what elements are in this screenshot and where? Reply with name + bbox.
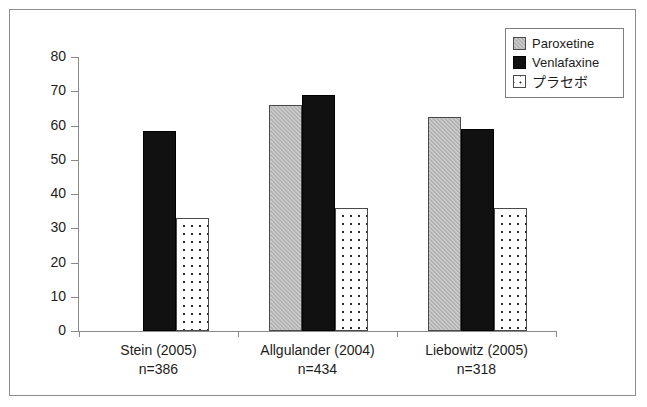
y-tick-label-wrap: 30 xyxy=(24,220,66,234)
y-tick-label-wrap: 60 xyxy=(24,118,66,132)
bar-venlafaxine-group-1 xyxy=(143,131,176,331)
y-tick-label: 70 xyxy=(32,83,66,97)
y-tick-label-wrap: 70 xyxy=(24,83,66,97)
x-tick xyxy=(238,331,239,337)
y-tick-label-wrap: 80 xyxy=(24,49,66,63)
y-tick-label: 10 xyxy=(32,289,66,303)
group-study-label: Liebowitz (2005) xyxy=(397,341,556,360)
bar-venlafaxine-group-3 xyxy=(461,129,494,331)
y-tick-0 xyxy=(71,331,78,332)
y-tick-40 xyxy=(71,194,78,195)
y-tick-80 xyxy=(71,57,78,58)
legend-item-venlafaxine: Venlafaxine xyxy=(513,53,616,72)
bar-venlafaxine-group-2 xyxy=(302,95,335,331)
legend-item-paroxetine: Paroxetine xyxy=(513,34,616,53)
y-tick-50 xyxy=(71,160,78,161)
y-tick-label-wrap: 0 xyxy=(24,323,66,337)
group-label-3: Liebowitz (2005)n=318 xyxy=(397,341,556,379)
legend-item-placebo: プラセボ xyxy=(513,72,616,91)
group-label-1: Stein (2005)n=386 xyxy=(79,341,238,379)
y-tick-label: 30 xyxy=(32,220,66,234)
chart-legend: Paroxetine Venlafaxine プラセボ xyxy=(505,28,624,98)
y-tick-label: 0 xyxy=(32,323,66,337)
y-tick-label-wrap: 40 xyxy=(24,186,66,200)
y-axis-line xyxy=(78,57,79,332)
x-tick xyxy=(556,331,557,337)
y-tick-20 xyxy=(71,263,78,264)
y-tick-10 xyxy=(71,297,78,298)
group-study-label: Stein (2005) xyxy=(79,341,238,360)
bar-placebo-group-1 xyxy=(176,218,209,331)
y-tick-label: 40 xyxy=(32,186,66,200)
group-study-label: Allgulander (2004) xyxy=(238,341,397,360)
y-tick-label: 60 xyxy=(32,118,66,132)
y-tick-60 xyxy=(71,126,78,127)
gray-hatched-swatch-icon xyxy=(513,37,526,50)
dotted-swatch-icon xyxy=(513,75,526,88)
y-tick-70 xyxy=(71,91,78,92)
legend-label-paroxetine: Paroxetine xyxy=(532,37,594,50)
group-n-label: n=318 xyxy=(397,360,556,379)
group-n-label: n=386 xyxy=(79,360,238,379)
chart-figure: 80706050403020100 Stein (2005)n=386Allgu… xyxy=(0,0,647,407)
black-swatch-icon xyxy=(513,56,526,69)
y-tick-30 xyxy=(71,228,78,229)
x-tick xyxy=(397,331,398,337)
legend-label-placebo: プラセボ xyxy=(532,75,588,89)
bar-paroxetine-group-2 xyxy=(269,105,302,331)
bar-placebo-group-2 xyxy=(335,208,368,331)
x-axis-line xyxy=(78,331,556,332)
bar-placebo-group-3 xyxy=(494,208,527,331)
bar-paroxetine-group-3 xyxy=(428,117,461,331)
y-tick-label: 50 xyxy=(32,152,66,166)
y-tick-label-wrap: 20 xyxy=(24,255,66,269)
y-tick-label-wrap: 10 xyxy=(24,289,66,303)
x-tick xyxy=(79,331,80,337)
group-n-label: n=434 xyxy=(238,360,397,379)
y-tick-label: 80 xyxy=(32,49,66,63)
y-tick-label: 20 xyxy=(32,255,66,269)
group-label-2: Allgulander (2004)n=434 xyxy=(238,341,397,379)
legend-label-venlafaxine: Venlafaxine xyxy=(532,56,599,69)
y-tick-label-wrap: 50 xyxy=(24,152,66,166)
